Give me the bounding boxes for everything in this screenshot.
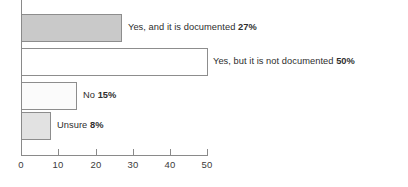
bar-label-text: Yes, and it is documented [128,22,235,32]
bar-label-unsure: Unsure 8% [57,120,103,130]
x-tick-label-50: 50 [195,159,219,170]
bar-label-pct: 27% [238,22,257,32]
x-tick-label-20: 20 [84,159,108,170]
bar-label-yes-not-documented: Yes, but it is not documented 50% [213,56,355,66]
bar-label-text: Yes, but it is not documented [213,56,334,66]
x-tick-30 [133,149,134,155]
bar-label-pct: 15% [98,90,117,100]
bar-yes-not-documented [21,48,208,76]
x-tick-label-0: 0 [9,159,33,170]
x-tick-10 [58,149,59,155]
bar-chart: Yes, and it is documented 27% Yes, but i… [0,0,408,187]
bar-no [21,82,77,110]
y-axis-line [21,0,22,156]
bar-label-pct: 8% [90,120,104,130]
x-tick-20 [96,149,97,155]
bar-label-yes-documented: Yes, and it is documented 27% [128,22,257,32]
x-tick-0 [21,149,22,155]
x-tick-label-10: 10 [46,159,70,170]
x-tick-label-40: 40 [158,159,182,170]
x-tick-40 [170,149,171,155]
bar-label-no: No 15% [83,90,116,100]
bar-label-text: No [83,90,95,100]
x-tick-label-30: 30 [121,159,145,170]
bar-label-pct: 50% [336,56,355,66]
x-axis-line [21,155,208,156]
bar-unsure [21,112,51,140]
x-tick-50 [207,149,208,155]
bar-yes-documented [21,14,122,42]
bar-label-text: Unsure [57,120,87,130]
